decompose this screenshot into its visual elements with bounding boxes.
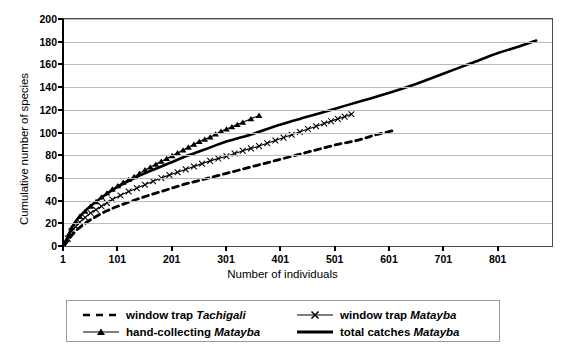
x-marker (328, 118, 334, 124)
y-tick-mark (58, 222, 63, 224)
x-tick-mark (334, 246, 336, 251)
x-tick-mark (442, 246, 444, 251)
x-marker (349, 111, 355, 117)
legend-item-hand-collecting-matayba: hand-collecting Matayba (81, 323, 260, 340)
x-marker (175, 169, 181, 175)
legend-label-2-italic: Matayba (214, 326, 260, 338)
x-marker (281, 135, 287, 141)
x-tick-mark (279, 246, 281, 251)
gridline (64, 201, 552, 202)
gridline (64, 223, 552, 224)
x-tick-mark (116, 246, 118, 251)
y-tick-label: 180 (29, 37, 57, 48)
legend-label-3-italic: Matayba (414, 326, 460, 338)
legend-item-window-trap-matayba: window trap Matayba (295, 306, 456, 323)
x-marker (272, 138, 278, 144)
gridline (64, 110, 552, 111)
x-marker (82, 215, 88, 221)
y-tick-label: 20 (29, 218, 57, 229)
y-tick-label: 200 (29, 14, 57, 25)
y-tick-mark (58, 200, 63, 202)
triangle-marker (248, 116, 255, 121)
y-tick-mark (58, 86, 63, 88)
triangle-marker (152, 161, 159, 166)
y-tick-mark (58, 18, 63, 20)
y-tick-label: 140 (29, 82, 57, 93)
x-axis-title: Number of individuals (0, 268, 565, 280)
legend-label-1-plain: window trap (340, 309, 410, 321)
x-tick-label: 601 (369, 254, 409, 265)
gridline (64, 87, 552, 88)
x-tick-label: 401 (260, 254, 300, 265)
x-marker (342, 114, 348, 120)
x-marker (191, 164, 197, 170)
legend-label-3: total catches Matayba (340, 326, 460, 338)
gridline (64, 64, 552, 65)
legend-swatch-dashed (81, 308, 121, 322)
legend-label-3-plain: total catches (340, 326, 414, 338)
triangle-marker (207, 134, 214, 139)
y-tick-mark (58, 154, 63, 156)
triangle-marker (185, 144, 192, 149)
x-marker (142, 182, 148, 188)
x-marker (134, 185, 140, 191)
y-tick-label: 80 (29, 150, 57, 161)
x-tick-label: 501 (315, 254, 355, 265)
x-tick-mark (62, 246, 64, 251)
y-tick-mark (58, 132, 63, 134)
legend-label-2-plain: hand-collecting (126, 326, 214, 338)
legend-item-total-catches-matayba: total catches Matayba (295, 323, 460, 340)
x-marker (118, 193, 124, 199)
triangle-marker (190, 142, 197, 147)
x-tick-label: 701 (423, 254, 463, 265)
x-tick-label: 1 (43, 254, 83, 265)
x-tick-mark (171, 246, 173, 251)
plot-area (62, 18, 553, 247)
legend-label-0-italic: Tachigali (196, 309, 245, 321)
x-marker (183, 166, 189, 172)
legend-label-1: window trap Matayba (340, 309, 456, 321)
y-tick-mark (58, 177, 63, 179)
series-3 (64, 41, 536, 246)
x-marker (321, 121, 327, 127)
x-marker (256, 143, 262, 149)
x-marker (207, 158, 213, 164)
x-marker (150, 178, 156, 184)
x-marker (93, 207, 99, 213)
gridline (64, 178, 552, 179)
x-tick-label: 801 (478, 254, 518, 265)
legend-item-window-trap-tachigali: window trap Tachigali (81, 306, 246, 323)
legend-label-0-plain: window trap (126, 309, 196, 321)
triangle-marker (158, 159, 165, 164)
x-tick-mark (497, 246, 499, 251)
x-marker (99, 203, 105, 209)
legend: window trap Tachigali window trap Matayb… (66, 300, 500, 342)
triangle-marker (256, 113, 263, 118)
x-tick-label: 101 (97, 254, 137, 265)
x-marker (240, 148, 246, 154)
gridline (64, 42, 552, 43)
y-tick-label: 120 (29, 105, 57, 116)
x-tick-label: 201 (152, 254, 192, 265)
x-marker (313, 123, 319, 129)
y-tick-label: 100 (29, 128, 57, 139)
legend-swatch-triangle-marker (81, 325, 121, 339)
series-line (64, 41, 536, 246)
y-tick-mark (58, 63, 63, 65)
legend-label-1-italic: Matayba (410, 309, 456, 321)
species-accumulation-chart: Cumulative number of species 02040608010… (0, 0, 565, 348)
x-marker (264, 140, 270, 146)
y-tick-label: 160 (29, 59, 57, 70)
x-tick-mark (388, 246, 390, 251)
y-tick-mark (58, 41, 63, 43)
y-tick-label: 60 (29, 173, 57, 184)
x-marker (126, 189, 132, 195)
triangle-marker (163, 156, 170, 161)
series-line (64, 114, 351, 246)
gridline (64, 155, 552, 156)
legend-swatch-solid (295, 325, 335, 339)
x-tick-mark (225, 246, 227, 251)
x-marker (335, 116, 341, 122)
triangle-marker (239, 119, 246, 124)
legend-swatch-x-marker (295, 308, 335, 322)
